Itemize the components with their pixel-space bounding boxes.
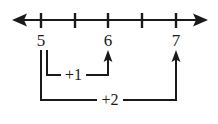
jump-label-plus-one: +1	[65, 66, 82, 83]
number-line-diagram: 5 6 7 +1 +2	[0, 0, 218, 124]
jump-bracket-plus-one: +1	[47, 50, 112, 83]
axis-label-six: 6	[104, 31, 113, 50]
axis-tick-label-group: 5 6 7	[37, 31, 181, 50]
jump-label-plus-two: +2	[101, 91, 118, 108]
axis-label-seven: 7	[172, 31, 181, 50]
number-line-figure: 5 6 7 +1 +2	[0, 0, 218, 124]
axis-label-five: 5	[37, 31, 46, 50]
